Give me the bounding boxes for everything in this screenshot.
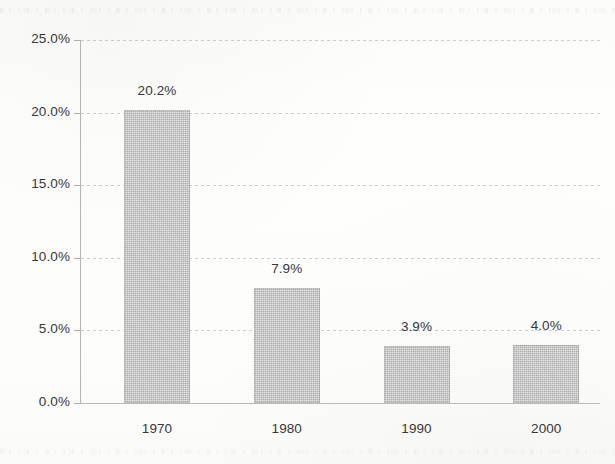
axis-baseline bbox=[81, 403, 600, 404]
y-axis-tick-mark bbox=[74, 113, 81, 114]
bar-value-label: 20.2% bbox=[112, 83, 202, 98]
y-axis-tick-mark bbox=[74, 258, 81, 259]
y-axis-tick-mark bbox=[74, 330, 81, 331]
bar-chart: 25.0%20.0%15.0%10.0%5.0%0.0% 20.2%19707.… bbox=[0, 0, 615, 464]
bar bbox=[384, 346, 450, 403]
bar bbox=[513, 345, 579, 403]
x-axis-category-label: 1980 bbox=[242, 421, 332, 436]
y-axis-tick-mark bbox=[74, 403, 81, 404]
y-axis-tick-label: 0.0% bbox=[4, 394, 70, 409]
y-axis-tick-label: 25.0% bbox=[4, 31, 70, 46]
y-axis-tick-labels: 25.0%20.0%15.0%10.0%5.0%0.0% bbox=[0, 0, 70, 464]
bar-value-label: 4.0% bbox=[501, 318, 591, 333]
y-axis-tick-label: 20.0% bbox=[4, 104, 70, 119]
bar bbox=[254, 288, 320, 403]
y-axis-tick-label: 15.0% bbox=[4, 176, 70, 191]
gridline bbox=[81, 40, 600, 41]
x-axis-category-label: 1970 bbox=[112, 421, 202, 436]
y-axis-tick-mark bbox=[74, 40, 81, 41]
y-axis-tick-mark bbox=[74, 185, 81, 186]
y-axis-tick-label: 10.0% bbox=[4, 249, 70, 264]
bar-value-label: 3.9% bbox=[372, 319, 462, 334]
x-axis-category-label: 2000 bbox=[501, 421, 591, 436]
x-axis-category-label: 1990 bbox=[372, 421, 462, 436]
bar bbox=[124, 110, 190, 403]
bar-value-label: 7.9% bbox=[242, 261, 332, 276]
chart-page: 25.0%20.0%15.0%10.0%5.0%0.0% 20.2%19707.… bbox=[0, 0, 615, 464]
y-axis-tick-label: 5.0% bbox=[4, 321, 70, 336]
